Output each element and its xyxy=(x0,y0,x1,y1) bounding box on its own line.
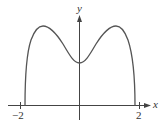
x-axis-arrow-icon xyxy=(144,103,151,108)
x-tick-label-2: 2 xyxy=(136,110,142,121)
x-tick-label-neg2: −2 xyxy=(12,110,24,121)
chart-canvas xyxy=(0,0,163,125)
y-axis-label: y xyxy=(77,3,82,14)
x-axis-label: x xyxy=(153,99,158,110)
y-axis-arrow-icon xyxy=(77,15,82,22)
